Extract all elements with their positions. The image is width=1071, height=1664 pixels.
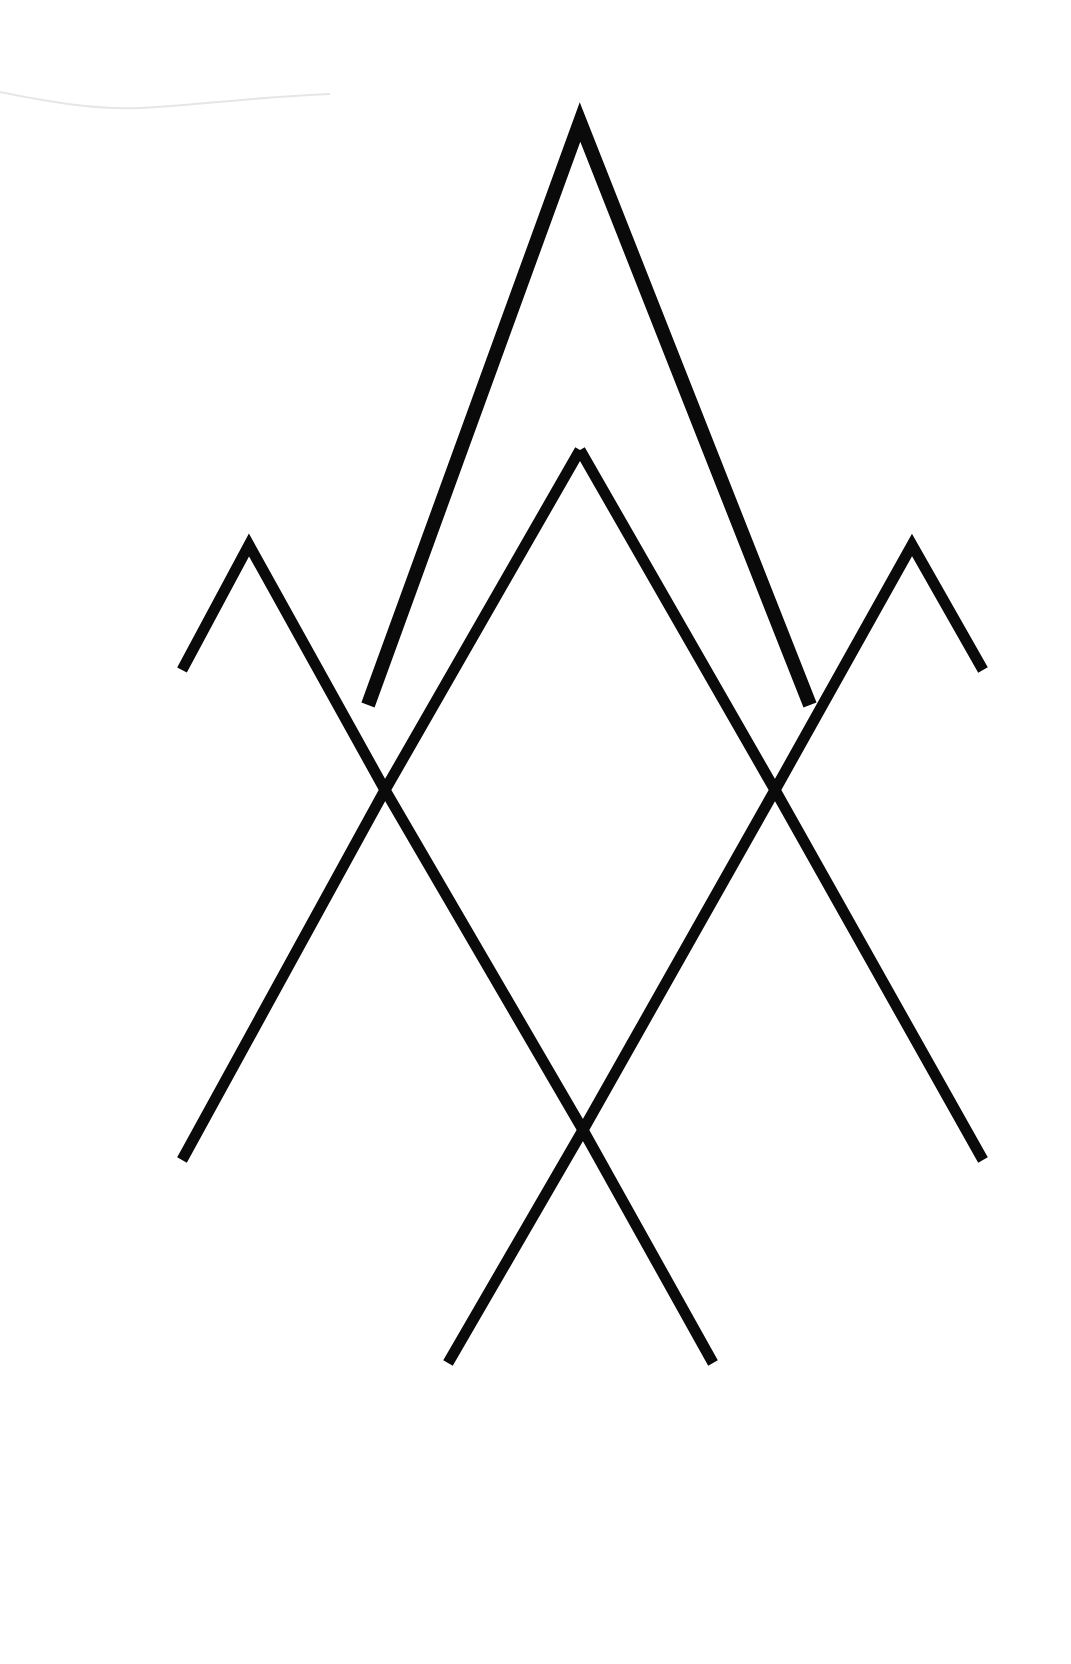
right-zigzag-line <box>775 545 983 1160</box>
left-zigzag-line <box>182 545 385 1160</box>
tall-peak-line <box>368 122 810 705</box>
artwork-canvas <box>0 0 1071 1664</box>
mountain-line-art <box>0 0 1071 1664</box>
